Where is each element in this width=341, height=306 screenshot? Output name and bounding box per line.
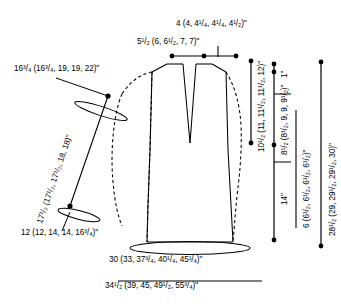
hem-ellipse — [130, 242, 250, 255]
label-neck-width: 5¹/₂ (6, 6¹/₂, 7, 7)" — [137, 38, 199, 46]
sleeve-silhouette-dashed — [112, 72, 241, 242]
label-yoke-depth: 10¹/₂ (11, 11¹/₂, 11¹/₂, 12)" — [258, 61, 266, 152]
sleeve-upper-band — [73, 98, 128, 124]
measure-column-yoke — [249, 59, 254, 146]
schematic-diagram: 4 (4, 4¹/₄, 4¹/₄, 4¹/₂)" 5¹/₂ (6, 6¹/₂, … — [0, 0, 341, 306]
sleeve-cuff-band — [57, 206, 101, 225]
label-shoulder-width: 4 (4, 4¹/₄, 4¹/₄, 4¹/₂)" — [176, 20, 247, 28]
garment-body-outline — [147, 64, 233, 242]
measure-column-total-length — [319, 60, 324, 249]
label-edge-band: 1" — [281, 71, 289, 78]
label-hem-width: 34¹/₂ (39, 45, 49¹/₂, 55³/₄)" — [105, 282, 198, 290]
top-measure-bar — [170, 46, 239, 58]
label-hip-width: 30 (33, 37³/₄, 40¹/₄, 45¹/₄)" — [109, 256, 202, 264]
label-armhole-depth: 8¹/₂ (8¹/₂, 9, 9, 9¹/₂)" — [281, 85, 289, 155]
label-total-length: 28¹/₂ (29, 29¹/₂, 29¹/₂, 30)" — [329, 143, 337, 236]
label-upper-sleeve-width: 16³/₄ (16³/₄, 19, 19, 22)" — [14, 65, 99, 73]
label-waist-to-hip: 14" — [281, 193, 289, 205]
label-side-seam: 6 (6¹/₂, 6¹/₂, 6¹/₂, 6¹/₂)" — [303, 150, 311, 228]
measure-sleeve-length-diagonal — [67, 93, 110, 208]
label-cuff-width: 12 (12, 14, 14, 16³/₄)" — [21, 229, 98, 237]
leader-upper-sleeve-width — [56, 78, 108, 96]
